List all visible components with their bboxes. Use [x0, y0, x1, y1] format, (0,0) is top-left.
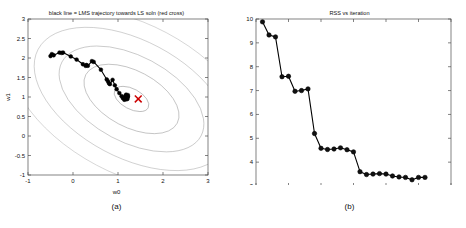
- panel-a-caption: (a): [0, 203, 233, 211]
- svg-text:7: 7: [250, 88, 254, 94]
- rss-curve: [260, 20, 427, 182]
- svg-text:-1: -1: [20, 172, 26, 178]
- panel-a-ylabel: w1: [5, 90, 11, 104]
- svg-text:3: 3: [250, 183, 254, 185]
- panel-b-plot: 051015202530345678910: [233, 0, 466, 185]
- panel-a-plot: -10123-1-0.500.511.522.53: [0, 0, 233, 185]
- svg-text:0: 0: [22, 133, 26, 139]
- panel-a-axes-frame: [28, 19, 208, 175]
- ls-solution-marker: [135, 96, 142, 103]
- svg-text:3: 3: [22, 16, 26, 22]
- svg-text:9: 9: [250, 40, 254, 46]
- svg-text:1: 1: [22, 94, 26, 100]
- panel-b-caption: (b): [233, 203, 466, 211]
- svg-text:3: 3: [206, 178, 210, 184]
- svg-text:6: 6: [250, 111, 254, 117]
- panel-b-axes-frame: [256, 19, 451, 185]
- panel-a-ticks: [28, 19, 208, 175]
- svg-text:10: 10: [246, 16, 253, 22]
- svg-text:8: 8: [250, 64, 254, 70]
- svg-text:-1: -1: [25, 178, 31, 184]
- svg-text:0: 0: [71, 178, 75, 184]
- svg-text:2.5: 2.5: [17, 36, 26, 42]
- svg-text:5: 5: [250, 135, 254, 141]
- svg-text:2: 2: [22, 55, 26, 61]
- svg-text:1: 1: [116, 178, 120, 184]
- panel-b-tick-labels: 051015202530345678910: [246, 16, 455, 185]
- svg-text:0.5: 0.5: [17, 114, 26, 120]
- panel-a-xlabel: w0: [0, 189, 233, 195]
- panel-b-ticks: [256, 19, 451, 185]
- panel-a: black line = LMS trajectory towards LS s…: [0, 0, 233, 228]
- svg-text:2: 2: [161, 178, 165, 184]
- figure-container: black line = LMS trajectory towards LS s…: [0, 0, 466, 228]
- svg-text:4: 4: [250, 159, 254, 165]
- contour-lines: [0, 0, 233, 185]
- panel-b: RSS vs iteration 051015202530345678910 (…: [233, 0, 466, 228]
- svg-text:1.5: 1.5: [17, 75, 26, 81]
- svg-text:-0.5: -0.5: [15, 153, 26, 159]
- lms-trajectory: [49, 51, 130, 102]
